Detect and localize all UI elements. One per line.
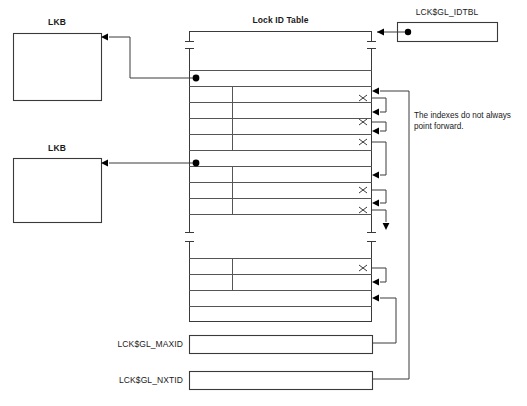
lkb-bottom-pointer-dot <box>193 160 200 167</box>
table-row-separators <box>189 71 372 307</box>
idtbl-pointer-dot <box>405 29 411 35</box>
lkb-top-label: LKB <box>13 17 101 27</box>
index-link-connectors <box>372 88 409 379</box>
diagram-canvas: LKB LKB Lock ID Table LCK$GL_IDTBL LCK$G… <box>0 0 527 406</box>
diagram-vector-layer <box>0 0 527 406</box>
idtbl-box <box>398 23 498 42</box>
lkb-bottom-box <box>14 159 102 223</box>
lock-id-table-outline <box>185 31 376 322</box>
lock-id-table-title: Lock ID Table <box>189 15 372 25</box>
nxtid-box <box>190 372 373 390</box>
index-direction-annotation: The indexes do not always point forward. <box>414 110 524 132</box>
lkb-bottom-label: LKB <box>13 143 101 153</box>
maxid-box <box>190 336 373 354</box>
table-to-lkb-top-arrow <box>101 34 193 78</box>
lkb-top-pointer-dot <box>193 75 200 82</box>
idtbl-label: LCK$GL_IDTBL <box>397 7 497 17</box>
table-to-lkb-bottom-arrow <box>101 160 193 167</box>
nxtid-label: LCK$GL_NXTID <box>95 375 183 385</box>
maxid-label: LCK$GL_MAXID <box>95 339 183 349</box>
lkb-top-box <box>14 34 102 101</box>
